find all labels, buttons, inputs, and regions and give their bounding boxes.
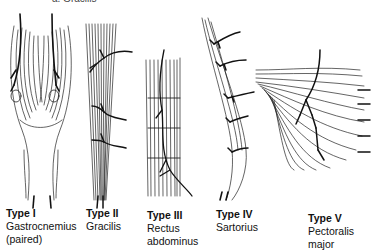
type-v-muscle: Pectoralis [308,225,354,238]
label-type-ii: Type II Gracilis [86,207,121,233]
pectoralis-major-illustration [256,68,364,170]
type-iii-muscle: Rectus [147,222,198,235]
type-i-note: (paired) [6,233,77,246]
label-type-iv: Type IV Sartorius [216,208,258,234]
label-type-iii: Type III Rectus abdominus [147,209,198,248]
label-type-i: Type I Gastrocnemius (paired) [6,207,77,246]
type-i-muscle: Gastrocnemius [6,220,77,233]
type-v-note: major [308,238,354,250]
type-iii-note: abdominus [147,235,198,248]
label-type-v: Type V Pectoralis major [308,212,354,250]
type-iii-title: Type III [147,209,198,222]
type-ii-title: Type II [86,207,121,220]
type-v-title: Type V [308,212,354,225]
type-iv-muscle: Sartorius [216,221,258,234]
sartorius-illustration [202,18,246,200]
type-ii-muscle: Gracilis [86,220,121,233]
type-iv-title: Type IV [216,208,258,221]
type-i-title: Type I [6,207,77,220]
